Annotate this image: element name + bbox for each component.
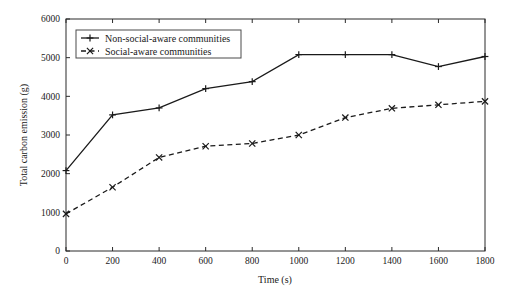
- chart-figure: 0100020003000400050006000 02004006008001…: [0, 0, 519, 303]
- x-tick-label: 1800: [476, 256, 495, 266]
- series-marker: [249, 78, 256, 85]
- y-tick-label: 0: [55, 246, 60, 256]
- x-tick-label: 400: [152, 256, 167, 266]
- series-layer: [63, 51, 489, 217]
- series-line: [66, 101, 485, 214]
- data-series: [63, 98, 488, 217]
- legend-label: Non-social-aware communities: [105, 33, 230, 44]
- x-tick-label: 1400: [382, 256, 401, 266]
- x-tick-label: 800: [245, 256, 260, 266]
- y-tick-label: 2000: [41, 169, 60, 179]
- x-tick-label: 1200: [336, 256, 355, 266]
- x-tick-label: 600: [199, 256, 214, 266]
- y-tick-label: 6000: [41, 14, 60, 24]
- x-tick-label: 0: [64, 256, 69, 266]
- series-marker: [342, 115, 348, 121]
- series-marker: [388, 51, 395, 58]
- x-tick-label: 200: [105, 256, 120, 266]
- y-axis-title: Total carbon emission (g): [18, 84, 30, 186]
- legend-label: Social-aware communities: [105, 46, 211, 57]
- data-series: [63, 51, 489, 174]
- y-tick-label: 5000: [41, 53, 60, 63]
- series-marker: [156, 105, 163, 112]
- series-marker: [342, 51, 349, 58]
- x-tick-label: 1000: [289, 256, 308, 266]
- chart-legend: Non-social-aware communitiesSocial-aware…: [76, 30, 241, 58]
- series-marker: [202, 85, 209, 92]
- series-marker: [482, 53, 489, 60]
- series-marker: [435, 63, 442, 70]
- series-marker: [109, 184, 115, 190]
- y-tick-label: 4000: [41, 92, 60, 102]
- line-chart-canvas: 0100020003000400050006000 02004006008001…: [0, 0, 519, 303]
- x-tick-label: 1600: [429, 256, 448, 266]
- series-marker: [295, 51, 302, 58]
- series-line: [66, 55, 485, 171]
- y-tick-label: 3000: [41, 130, 60, 140]
- x-axis-title: Time (s): [258, 274, 292, 286]
- y-tick-label: 1000: [41, 208, 60, 218]
